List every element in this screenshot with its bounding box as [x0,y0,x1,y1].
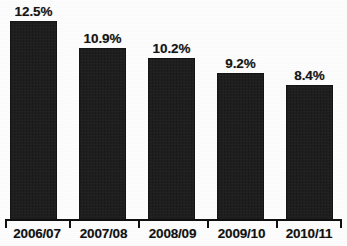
bar-chart: 12.5% 10.9% 10.2% 9.2% 8.4% [0,0,347,246]
x-axis-line [5,219,342,221]
category-label-2009-10: 2009/10 [207,226,276,241]
category-label-2006-07: 2006/07 [5,226,69,241]
plot-area: 12.5% 10.9% 10.2% 9.2% 8.4% [0,0,347,220]
x-axis-labels: 2006/07 2007/08 2008/09 2009/10 2010/11 [0,226,347,246]
bar-group-2009-10: 9.2% [217,73,264,220]
category-label-2010-11: 2010/11 [276,226,342,241]
bar-group-2010-11: 8.4% [286,85,333,220]
bar-value-label: 12.5% [15,4,53,19]
bar[interactable] [148,58,195,220]
bar[interactable] [79,48,126,220]
bar[interactable] [217,73,264,220]
bar-value-label: 9.2% [225,56,255,71]
category-label-2007-08: 2007/08 [69,226,138,241]
category-label-2008-09: 2008/09 [138,226,207,241]
bar-group-2007-08: 10.9% [79,48,126,220]
bar-group-2006-07: 12.5% [10,21,57,220]
bar-value-label: 8.4% [294,68,324,83]
bar-value-label: 10.9% [84,31,122,46]
bar[interactable] [286,85,333,220]
bar[interactable] [10,21,57,220]
bar-value-label: 10.2% [153,41,191,56]
bar-group-2008-09: 10.2% [148,58,195,220]
